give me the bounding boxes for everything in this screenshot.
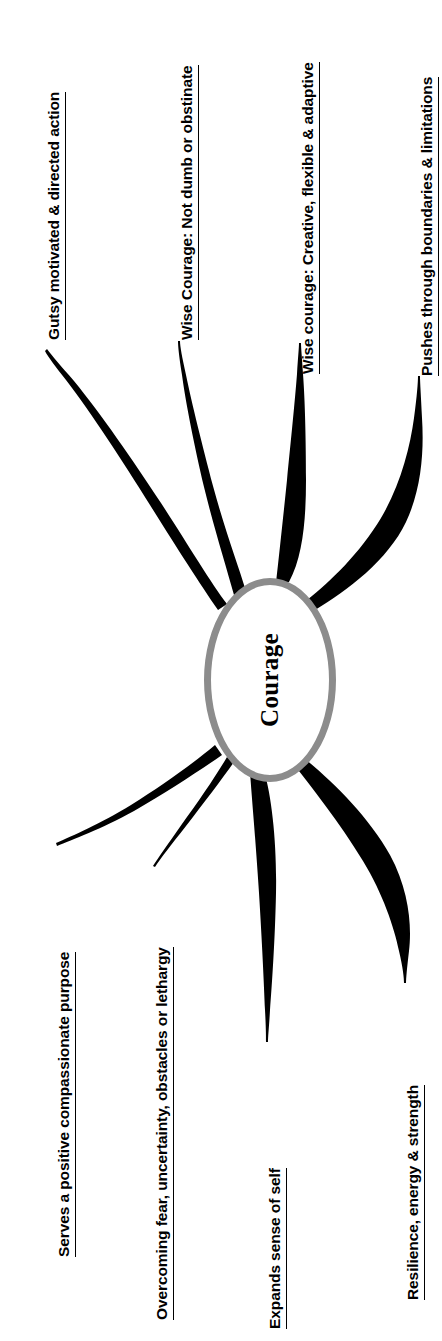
label-wise-courage-not-dumb[interactable]: Wise Courage: Not dumb or obstinate [179, 65, 199, 340]
label-overcoming-fear[interactable]: Overcoming fear, uncertainty, obstacles … [154, 947, 174, 1320]
branch-resilience [291, 755, 410, 983]
label-serves-purpose[interactable]: Serves a positive compassionate purpose [56, 952, 76, 1257]
label-resilience[interactable]: Resilience, energy & strength [405, 1085, 425, 1300]
branch-serves-purpose [56, 745, 222, 846]
label-gutsy[interactable]: Gutsy motivated & directed action [46, 92, 66, 340]
label-wise-courage-creative[interactable]: Wise courage: Creative, flexible & adapt… [300, 62, 320, 374]
center-node[interactable]: Courage [204, 578, 336, 782]
branch-pushes-through [307, 376, 423, 610]
mind-map-canvas: Courage Gutsy motivated & directed actio… [0, 0, 442, 1341]
branch-expands-self [250, 771, 276, 1042]
label-pushes-through[interactable]: Pushes through boundaries & limitations [419, 77, 439, 376]
branch-gutsy [45, 349, 227, 610]
branch-wise-courage-creative [276, 343, 306, 583]
center-node-label: Courage [256, 633, 284, 727]
label-expands-self[interactable]: Expands sense of self [267, 1168, 287, 1329]
